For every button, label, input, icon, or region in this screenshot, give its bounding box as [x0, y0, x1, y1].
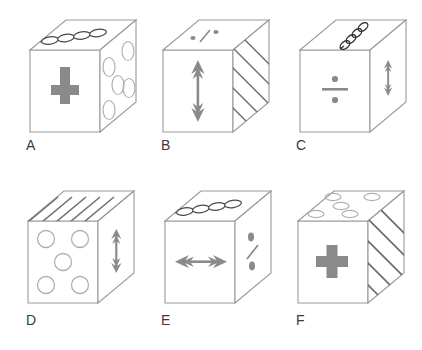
cube-a-drawing [8, 4, 148, 144]
cube-e: E [143, 175, 283, 350]
cube-d-label: D [26, 313, 36, 327]
cube-b-label: B [161, 138, 171, 152]
cube-a: A [8, 4, 148, 179]
cube-d-drawing [8, 175, 148, 315]
cube-e-label: E [161, 313, 171, 327]
cube-f-drawing [278, 175, 418, 315]
cube-b: B [143, 4, 283, 179]
cube-f-label: F [296, 313, 305, 327]
cube-a-label: A [26, 138, 36, 152]
cube-c-front-face [300, 50, 370, 132]
cube-d-front-face [28, 221, 98, 303]
cube-e-drawing [143, 175, 283, 315]
cube-c-drawing [278, 4, 418, 144]
cube-f: F [278, 175, 418, 350]
cube-c-label: C [296, 138, 306, 152]
cube-puzzle-figure: A [0, 0, 422, 350]
cube-c: C [278, 4, 418, 179]
cube-d: D [8, 175, 148, 350]
cube-b-drawing [143, 4, 283, 144]
